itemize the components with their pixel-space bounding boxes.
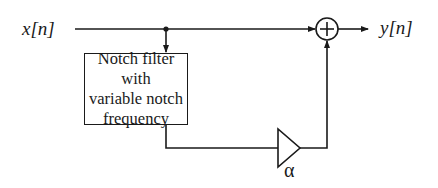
filter-line-1: Notch filter with [85,49,187,89]
filter-line-2: variable notch [89,89,183,109]
notch-filter-block: Notch filter with variable notch frequen… [84,53,188,125]
block-diagram-wires [0,0,438,188]
gain-label: α [284,160,294,180]
filter-line-3: frequency [103,109,169,129]
gain-to-sum-line [300,41,327,148]
filter-to-gain-line [166,125,278,148]
input-label: x[n] [22,19,55,38]
output-label: y[n] [380,18,413,37]
